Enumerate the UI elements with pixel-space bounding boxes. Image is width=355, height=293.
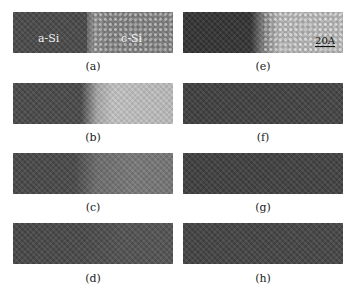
noise-texture (183, 223, 343, 264)
panel-d-caption: (d) (13, 272, 173, 285)
panel-e-image: 20A (183, 12, 343, 53)
panel-b-caption: (b) (13, 131, 173, 144)
panel-c-caption: (c) (13, 201, 173, 214)
noise-texture (13, 12, 173, 53)
panel-a-caption: (a) (13, 60, 173, 73)
panel-d-image (13, 223, 173, 264)
panel-f-image (183, 83, 343, 124)
panel-c-image (13, 153, 173, 194)
scale-bar: 20A (315, 35, 335, 47)
panel-g-caption: (g) (183, 201, 343, 214)
noise-texture (183, 83, 343, 124)
a-si-label: a-Si (38, 32, 59, 45)
panel-f-caption: (f) (183, 131, 343, 144)
scale-bar-label: 20A (315, 35, 335, 46)
panel-g-image (183, 153, 343, 194)
panel-a-image: a-Si c-Si (13, 12, 173, 53)
panel-h-caption: (h) (183, 272, 343, 285)
noise-texture (13, 153, 173, 194)
noise-texture (13, 83, 173, 124)
panel-e-caption: (e) (183, 60, 343, 73)
noise-texture (13, 223, 173, 264)
c-si-label: c-Si (121, 32, 142, 45)
noise-texture (183, 153, 343, 194)
panel-h-image (183, 223, 343, 264)
scale-bar-line (315, 46, 335, 47)
panel-b-image (13, 83, 173, 124)
